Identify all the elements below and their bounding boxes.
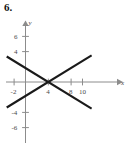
- y-axis-label: y: [28, 19, 33, 27]
- problem-number-label: 6.: [4, 1, 12, 13]
- x-tick-label-neg2: -2: [11, 88, 17, 96]
- plot-svg: -2 4 8 10 6 4 -4 -6 y x: [0, 14, 128, 151]
- y-tick-label-neg6: -6: [12, 124, 18, 132]
- x-tick-label-4: 4: [46, 88, 50, 96]
- figure-container: 6. -2 4 8 10 6: [0, 0, 128, 151]
- x-axis-label: x: [120, 79, 125, 87]
- y-tick-label-neg4: -4: [12, 109, 18, 117]
- y-tick-label-6: 6: [14, 33, 18, 41]
- x-tick-label-8: 8: [69, 88, 73, 96]
- x-tick-label-10: 10: [79, 88, 87, 96]
- coordinate-plot: -2 4 8 10 6 4 -4 -6 y x: [0, 14, 128, 151]
- y-tick-label-4: 4: [14, 48, 18, 56]
